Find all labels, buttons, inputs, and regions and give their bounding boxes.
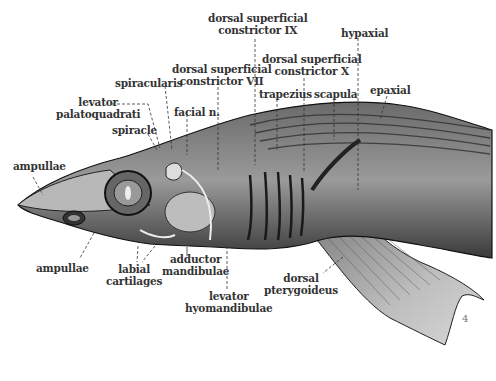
label-ampullae-top: ampullae — [13, 160, 66, 172]
label-ampullae-bottom: ampullae — [36, 262, 89, 274]
label-spiracle: spiracle — [112, 124, 157, 136]
label-trapezius: trapezius — [259, 88, 312, 100]
label-dorsal-superficial-constrictor-x: dorsal superficial constrictor X — [262, 53, 361, 77]
label-adductor-mandibulae: adductor mandibulae — [162, 253, 229, 277]
label-labial-cartilages: labial cartilages — [106, 263, 162, 287]
shark-anatomy-illustration: 4 — [0, 0, 496, 381]
label-levator-palatoquadrati: levator palatoquadrati — [56, 96, 140, 120]
label-dorsal-superficial-constrictor-vii: dorsal superficial constrictor VII — [172, 63, 271, 87]
label-dorsal-superficial-constrictor-ix: dorsal superficial constrictor IX — [208, 12, 307, 36]
label-levator-hyomandibulae: levator hyomandibulae — [185, 290, 272, 314]
spiracle-opening — [166, 163, 182, 180]
label-epaxial: epaxial — [370, 84, 410, 96]
svg-text:4: 4 — [462, 313, 468, 324]
label-spiracularis: spiracularis — [115, 77, 182, 89]
label-dorsal-pterygoideus: dorsal pterygoideus — [264, 272, 338, 296]
label-facial-nerve: facial n. — [174, 106, 220, 118]
label-scapula: scapula — [314, 88, 357, 100]
label-hypaxial: hypaxial — [341, 27, 388, 39]
